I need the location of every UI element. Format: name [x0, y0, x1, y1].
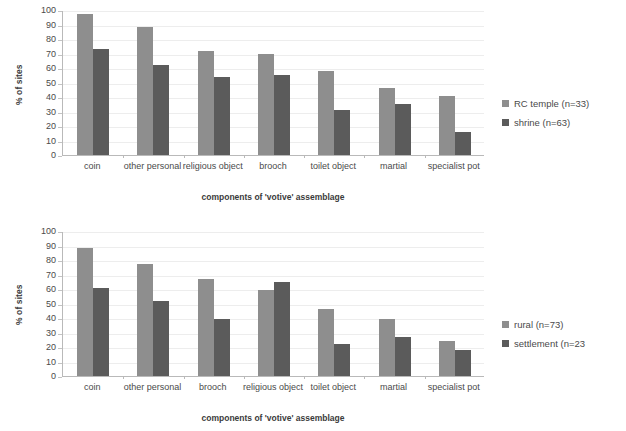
y-tick-label: 100: [41, 6, 56, 15]
bar: [274, 75, 290, 155]
x-tick-label: specialist pot: [424, 382, 484, 393]
x-tick-label: brooch: [183, 382, 243, 393]
bar: [153, 65, 169, 155]
x-tick-label: religious object: [243, 382, 303, 393]
bar: [395, 104, 411, 155]
chart-top-x-axis-title: components of 'votive' assemblage: [62, 192, 484, 202]
y-tick-label: 20: [46, 343, 56, 352]
x-tick-mark: [364, 155, 365, 158]
bar-group: [364, 232, 424, 376]
y-tick-label: 90: [46, 21, 56, 30]
legend-item[interactable]: shrine (n=63): [502, 117, 570, 128]
y-tick-label: 40: [46, 93, 56, 102]
x-tick-mark: [184, 376, 185, 379]
x-tick-label: toilet object: [303, 382, 363, 393]
bar-group: [244, 232, 304, 376]
chart-top-y-axis-title: % of sites: [14, 64, 24, 105]
y-tick-label: 60: [46, 64, 56, 73]
x-tick-label: martial: [363, 382, 423, 393]
chart-bottom-y-axis-title: % of sites: [14, 284, 24, 325]
bar-group: [184, 232, 244, 376]
bar-group: [63, 232, 123, 376]
bar: [379, 319, 395, 376]
bar: [93, 288, 109, 376]
bar-group: [304, 11, 364, 155]
x-tick-mark: [425, 376, 426, 379]
bar-group: [123, 11, 183, 155]
y-tick-label: 100: [41, 227, 56, 236]
bar: [318, 71, 334, 155]
chart-bottom-bars: [63, 232, 484, 376]
y-tick-label: 80: [46, 35, 56, 44]
bar: [93, 49, 109, 155]
bar: [153, 301, 169, 376]
y-tick-mark: [58, 377, 62, 378]
bar: [214, 77, 230, 155]
bar: [137, 27, 153, 155]
bar: [455, 350, 471, 376]
y-tick-label: 80: [46, 256, 56, 265]
legend-item[interactable]: rural (n=73): [502, 319, 563, 330]
x-tick-label: coin: [62, 161, 122, 172]
y-tick-label: 70: [46, 50, 56, 59]
chart-top: % of sites 0102030405060708090100 coinot…: [0, 0, 626, 215]
chart-top-bars: [63, 11, 484, 155]
y-tick-label: 50: [46, 300, 56, 309]
x-tick-label: brooch: [243, 161, 303, 172]
bar: [258, 54, 274, 156]
x-tick-mark: [123, 376, 124, 379]
legend-swatch-icon: [502, 119, 509, 126]
bar: [137, 264, 153, 376]
y-tick-label: 40: [46, 314, 56, 323]
x-tick-label: specialist pot: [424, 161, 484, 172]
y-tick-label: 10: [46, 137, 56, 146]
bar: [439, 96, 455, 155]
y-tick-label: 30: [46, 108, 56, 117]
y-tick-label: 0: [51, 372, 56, 381]
y-tick-label: 50: [46, 79, 56, 88]
bar-group: [304, 232, 364, 376]
y-tick-label: 10: [46, 358, 56, 367]
chart-top-plot-area: [62, 11, 484, 156]
x-tick-label: martial: [363, 161, 423, 172]
y-tick-label: 60: [46, 285, 56, 294]
x-tick-label: toilet object: [303, 161, 363, 172]
legend-item[interactable]: RC temple (n=33): [502, 98, 589, 109]
chart-top-y-tick-labels: 0102030405060708090100: [28, 0, 56, 160]
legend-label: rural (n=73): [514, 319, 563, 330]
bar-group: [184, 11, 244, 155]
bar: [77, 248, 93, 376]
bar-group: [364, 11, 424, 155]
x-tick-mark: [244, 155, 245, 158]
bar: [258, 290, 274, 376]
bar: [214, 319, 230, 376]
x-tick-mark: [244, 376, 245, 379]
legend-label: settlement (n=23: [514, 338, 585, 349]
chart-bottom-y-tick-labels: 0102030405060708090100: [28, 215, 56, 375]
y-tick-label: 20: [46, 122, 56, 131]
bar: [274, 282, 290, 376]
bar-group: [425, 11, 485, 155]
chart-bottom-x-axis-title: components of 'votive' assemblage: [62, 413, 484, 423]
bar: [455, 132, 471, 155]
bar: [318, 309, 334, 376]
bar: [334, 344, 350, 376]
bar: [439, 341, 455, 376]
chart-bottom-plot-area: [62, 232, 484, 377]
y-tick-label: 70: [46, 271, 56, 280]
x-tick-mark: [364, 376, 365, 379]
bar-group: [63, 11, 123, 155]
bar: [198, 279, 214, 376]
bar: [198, 51, 214, 155]
legend-swatch-icon: [502, 321, 509, 328]
bar: [395, 337, 411, 376]
x-tick-label: religious object: [183, 161, 243, 172]
y-tick-label: 30: [46, 329, 56, 338]
bar: [379, 88, 395, 155]
legend-item[interactable]: settlement (n=23: [502, 338, 585, 349]
y-tick-label: 90: [46, 242, 56, 251]
legend-swatch-icon: [502, 340, 509, 347]
x-tick-label: other personal: [122, 161, 182, 172]
legend-swatch-icon: [502, 100, 509, 107]
y-tick-label: 0: [51, 151, 56, 160]
